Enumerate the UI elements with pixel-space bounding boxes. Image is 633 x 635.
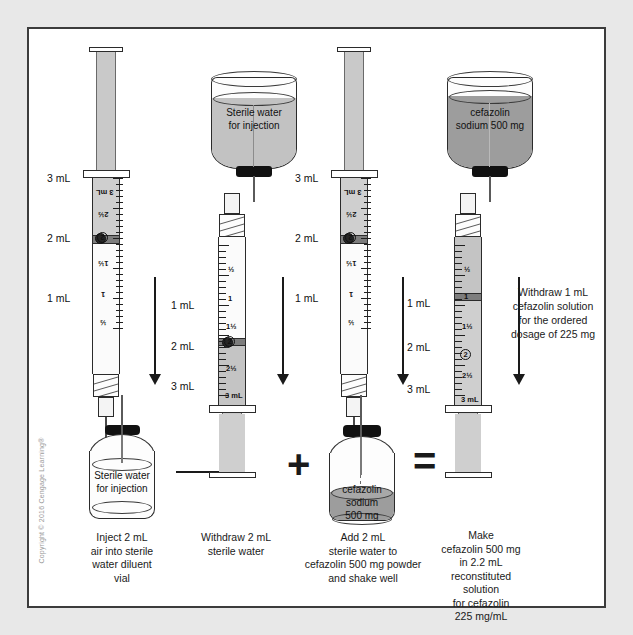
syringe-4-label-1ml: 1 mL	[407, 298, 430, 309]
vial-2-label-line-1: cefazolin	[321, 483, 403, 496]
syringe-3-scale-3ml: 3 mL	[344, 188, 362, 196]
syringe-2-label-1ml: 1 mL	[171, 300, 194, 311]
syringe-2-scale-1: 1	[228, 295, 232, 303]
syringe-2-label-3ml: 3 mL	[171, 381, 194, 392]
syringe-4-label-3ml: 3 mL	[407, 384, 430, 395]
syringe-3-plunger-rod	[344, 52, 364, 170]
syringe-2-barrel-flange	[209, 405, 256, 413]
bottle-sterile-water: Sterile water for injection	[201, 73, 307, 188]
step-4-sidenote-line-3: for the ordered	[497, 313, 609, 327]
step-4-caption-line-4: reconstituted	[411, 570, 551, 584]
bottle-1-label-line-2: for injection	[201, 119, 307, 132]
bottle-1-liquid-surface	[213, 92, 295, 106]
syringe-4-scale-1: 1	[464, 293, 468, 301]
syringe-1-label-3ml: 3 mL	[47, 173, 70, 184]
vial-1-label: Sterile water for injection	[81, 469, 163, 495]
syringe-2-luer-hub	[219, 214, 245, 237]
vial-1-base-ellipse	[92, 501, 152, 514]
bottle-2-label: cefazolin sodium 500 mg	[437, 106, 543, 132]
syringe-3-scale-2: 2	[345, 232, 356, 243]
bottle-cefazolin-solution: cefazolin sodium 500 mg	[437, 73, 543, 188]
vial-1-injected-needle	[121, 395, 123, 435]
vial-1-label-line-2: for injection	[81, 482, 163, 495]
step-1-caption-line-4: vial	[57, 572, 187, 586]
vial-2-injected-needle	[360, 395, 362, 437]
step-1-caption-line-1: Inject 2 mL	[57, 531, 187, 545]
vial-2-label-line-2: sodium	[321, 496, 403, 509]
syringe-3-scale-half: ½	[348, 318, 354, 326]
syringe-step-3: 3 mL 2½ 2 1½ 1 ½	[319, 47, 397, 407]
syringe-3-label-3ml: 3 mL	[295, 173, 318, 184]
syringe-1-needle-cone	[98, 397, 114, 417]
syringe-2-scale-2half: 2½	[226, 365, 236, 373]
syringe-4-needle-cone	[460, 193, 476, 214]
vial-1-needle-inside	[121, 435, 123, 463]
bottle-2-label-line-1: cefazolin	[437, 106, 543, 119]
syringe-3-scale-1half: 1½	[346, 259, 356, 267]
syringe-1-scale-1: 1	[101, 290, 105, 298]
step-3-down-arrow	[397, 277, 409, 385]
step-1-down-arrow	[149, 277, 161, 385]
step-4-caption-line-1: Make	[411, 529, 551, 543]
syringe-2-scale-1half: 1½	[226, 323, 236, 331]
syringe-1-scale-1half: 1½	[98, 259, 108, 267]
bottle-2-top-ellipse	[447, 71, 533, 87]
syringe-step-1: 3 mL 2½ 2 1½ 1 ½	[71, 47, 149, 407]
syringe-1-label-1ml: 1 mL	[47, 293, 70, 304]
syringe-step-2: ½ 1 1½ 2 2½ 3 mL	[197, 189, 275, 414]
vial-2-label-line-3: 500 mg	[321, 509, 403, 522]
syringe-step-4-lower	[433, 414, 511, 479]
step-2-caption-line-1: Withdraw 2 mL	[171, 531, 301, 545]
syringe-1-plunger-rod	[96, 52, 116, 170]
copyright-notice: Copyright © 2016 Cengage Learning®	[38, 431, 45, 571]
figure-frame: Copyright © 2016 Cengage Learning®	[27, 27, 606, 608]
syringe-4-barrel-flange	[445, 405, 492, 413]
vial-sterile-water-step1: Sterile water for injection	[81, 425, 163, 521]
step-4-sidenote-line-1: Withdraw 1 mL	[497, 285, 609, 299]
step-4-caption-line-7: 225 mg/mL	[411, 610, 551, 624]
bottle-2-liquid-surface	[449, 90, 531, 104]
syringe-1-luer-hub	[93, 374, 119, 397]
step-4-caption-line-2: cefazolin 500 mg	[411, 543, 551, 557]
step-2-down-arrow	[277, 277, 289, 385]
plus-operator: +	[287, 444, 310, 484]
syringe-4-lower-rod	[455, 414, 481, 474]
syringe-3-label-2ml: 2 mL	[295, 233, 318, 244]
syringe-4-luer-hub	[455, 214, 481, 237]
syringe-2-needle-cone	[224, 193, 240, 214]
syringe-4-scale-half: ½	[464, 266, 470, 274]
step-4-caption-line-6: for cefazolin	[411, 597, 551, 611]
step-1-caption-line-3: water diluent	[57, 558, 187, 572]
bottle-2-label-line-2: sodium 500 mg	[437, 119, 543, 132]
bottle-1-label: Sterile water for injection	[201, 106, 307, 132]
syringe-1-scale-half: ½	[100, 318, 106, 326]
syringe-1-barrel-flange	[83, 170, 130, 178]
step-2-caption-line-2: sterile water	[171, 545, 301, 559]
syringe-4-scale-3: 3 mL	[461, 396, 479, 404]
step-4-sidenote: Withdraw 1 mL cefazolin solution for the…	[497, 285, 609, 341]
vial-2-label: cefazolin sodium 500 mg	[321, 483, 403, 522]
step-1-caption: Inject 2 mL air into sterile water dilue…	[57, 531, 187, 585]
vial-2-needle-inside	[360, 437, 362, 475]
syringe-4-scale-1half: 1½	[462, 323, 472, 331]
syringe-1-label-2ml: 2 mL	[47, 233, 70, 244]
syringe-2-scale-half: ½	[228, 266, 234, 274]
vial-1-label-line-1: Sterile water	[81, 469, 163, 482]
diagram-stage: Copyright © 2016 Cengage Learning®	[29, 29, 604, 606]
step-1-caption-line-2: air into sterile	[57, 545, 187, 559]
bottle-1-top-ellipse	[211, 71, 297, 87]
step-4-caption: Make cefazolin 500 mg in 2.2 mL reconsti…	[411, 529, 551, 624]
syringe-4-lower-flange	[445, 472, 492, 478]
step-4-sidenote-line-2: cefazolin solution	[497, 299, 609, 313]
syringe-2-lower-flange	[209, 472, 256, 478]
syringe-3-scale-2half: 2½	[346, 210, 356, 218]
vial-cefazolin-powder: cefazolin sodium 500 mg	[321, 425, 403, 525]
step-4-caption-line-3: in 2.2 mL	[411, 556, 551, 570]
syringe-1-scale-3ml: 3 mL	[96, 188, 114, 196]
syringe-step-2-lower	[197, 414, 275, 479]
syringe-4-label-2ml: 2 mL	[407, 342, 430, 353]
syringe-3-label-1ml: 1 mL	[295, 293, 318, 304]
syringe-1-scale-2: 2	[97, 232, 108, 243]
syringe-4-scale-2half: 2½	[462, 372, 472, 380]
step-4-caption-line-5: solution	[411, 583, 551, 597]
